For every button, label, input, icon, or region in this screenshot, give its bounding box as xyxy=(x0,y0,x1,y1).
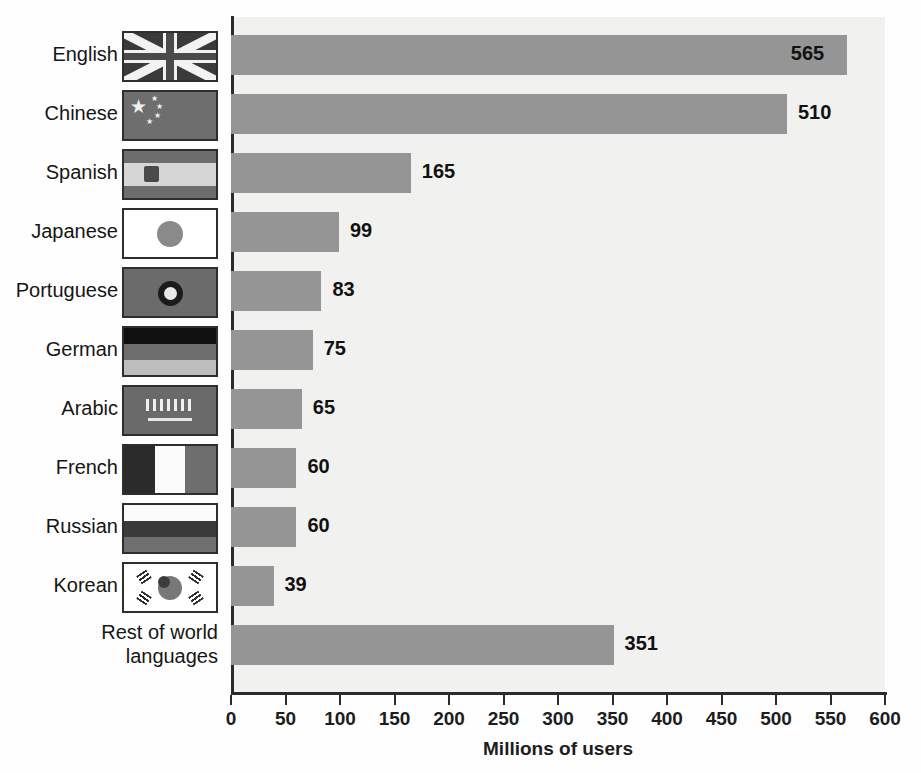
chart-row: Korean39 xyxy=(0,556,921,615)
x-tick-0 xyxy=(230,695,232,705)
category-label-line: English xyxy=(0,42,118,66)
japan-flag xyxy=(122,208,218,259)
bar-value-label: 65 xyxy=(313,396,335,419)
germany-flag xyxy=(122,326,218,377)
united-kingdom-flag xyxy=(122,31,218,82)
category-label-chinese: Chinese xyxy=(0,101,118,125)
category-label-spanish: Spanish xyxy=(0,160,118,184)
bar-value-label: 565 xyxy=(791,42,824,65)
x-tick-250 xyxy=(503,695,505,705)
category-label-arabic: Arabic xyxy=(0,396,118,420)
bar-chart: 050100150200250300350400450500550600 Eng… xyxy=(0,0,921,773)
category-label-line: Portuguese xyxy=(0,278,118,302)
x-tick-450 xyxy=(721,695,723,705)
bar-russian[interactable] xyxy=(231,507,296,547)
bar-value-label: 83 xyxy=(332,278,354,301)
x-tick-label-450: 450 xyxy=(706,708,738,730)
spain-flag xyxy=(122,149,218,200)
bar-value-label: 60 xyxy=(307,455,329,478)
x-axis-line xyxy=(231,692,887,695)
category-label-line: French xyxy=(0,455,118,479)
x-tick-label-500: 500 xyxy=(760,708,792,730)
category-label-german: German xyxy=(0,337,118,361)
bar-value-label: 60 xyxy=(307,514,329,537)
bar-korean[interactable] xyxy=(231,566,274,606)
chart-row: French60 xyxy=(0,438,921,497)
bar-value-label: 39 xyxy=(285,573,307,596)
bar-rest-of-world-languages[interactable] xyxy=(231,625,614,665)
flag-graphic xyxy=(124,328,216,375)
bar-value-label: 351 xyxy=(625,632,658,655)
saudi-arabia-flag xyxy=(122,385,218,436)
x-tick-50 xyxy=(285,695,287,705)
chart-row: Portuguese83 xyxy=(0,261,921,320)
x-tick-label-50: 50 xyxy=(275,708,296,730)
category-label-line: languages xyxy=(0,644,218,668)
france-flag xyxy=(122,444,218,495)
chart-row: Spanish165 xyxy=(0,143,921,202)
chart-row: Rest of worldlanguages351 xyxy=(0,615,921,674)
category-label-english: English xyxy=(0,42,118,66)
x-tick-500 xyxy=(775,695,777,705)
chart-row: Arabic65 xyxy=(0,379,921,438)
south-korea-flag xyxy=(122,562,218,613)
x-tick-label-300: 300 xyxy=(542,708,574,730)
bar-japanese[interactable] xyxy=(231,212,339,252)
bar-value-label: 99 xyxy=(350,219,372,242)
x-tick-label-600: 600 xyxy=(869,708,901,730)
bar-german[interactable] xyxy=(231,330,313,370)
category-label-japanese: Japanese xyxy=(0,219,118,243)
flag-graphic xyxy=(124,387,216,434)
category-label-portuguese: Portuguese xyxy=(0,278,118,302)
flag-graphic: ★★★★★ xyxy=(124,92,216,139)
x-tick-400 xyxy=(666,695,668,705)
category-label-line: Chinese xyxy=(0,101,118,125)
x-tick-label-400: 400 xyxy=(651,708,683,730)
x-tick-200 xyxy=(448,695,450,705)
category-label-line: German xyxy=(0,337,118,361)
flag-graphic xyxy=(124,210,216,257)
category-label-line: Arabic xyxy=(0,396,118,420)
x-tick-100 xyxy=(339,695,341,705)
bar-arabic[interactable] xyxy=(231,389,302,429)
brazil-flag xyxy=(122,267,218,318)
category-label-rest-of-world-languages: Rest of worldlanguages xyxy=(0,620,218,668)
category-label-korean: Korean xyxy=(0,573,118,597)
russia-flag xyxy=(122,503,218,554)
chart-row: Russian60 xyxy=(0,497,921,556)
category-label-line: Korean xyxy=(0,573,118,597)
x-axis-title: Millions of users xyxy=(231,738,885,760)
x-tick-label-200: 200 xyxy=(433,708,465,730)
chart-row: English565 xyxy=(0,25,921,84)
china-flag: ★★★★★ xyxy=(122,90,218,141)
x-tick-label-100: 100 xyxy=(324,708,356,730)
category-label-line: Rest of world xyxy=(0,620,218,644)
bar-english[interactable] xyxy=(231,35,847,75)
x-tick-label-350: 350 xyxy=(597,708,629,730)
bar-french[interactable] xyxy=(231,448,296,488)
category-label-line: Russian xyxy=(0,514,118,538)
bar-value-label: 510 xyxy=(798,101,831,124)
bar-value-label: 75 xyxy=(324,337,346,360)
x-tick-label-550: 550 xyxy=(815,708,847,730)
bar-spanish[interactable] xyxy=(231,153,411,193)
x-tick-label-150: 150 xyxy=(379,708,411,730)
flag-graphic xyxy=(124,446,216,493)
category-label-line: Japanese xyxy=(0,219,118,243)
bar-portuguese[interactable] xyxy=(231,271,321,311)
bar-chinese[interactable] xyxy=(231,94,787,134)
x-tick-label-0: 0 xyxy=(226,708,237,730)
x-tick-label-250: 250 xyxy=(488,708,520,730)
x-tick-300 xyxy=(557,695,559,705)
bar-value-label: 165 xyxy=(422,160,455,183)
chart-row: Chinese★★★★★510 xyxy=(0,84,921,143)
chart-row: German75 xyxy=(0,320,921,379)
flag-graphic xyxy=(124,564,216,611)
flag-graphic xyxy=(124,33,216,80)
chart-row: Japanese99 xyxy=(0,202,921,261)
category-label-russian: Russian xyxy=(0,514,118,538)
x-tick-350 xyxy=(612,695,614,705)
x-tick-550 xyxy=(830,695,832,705)
flag-graphic xyxy=(124,269,216,316)
category-label-line: Spanish xyxy=(0,160,118,184)
